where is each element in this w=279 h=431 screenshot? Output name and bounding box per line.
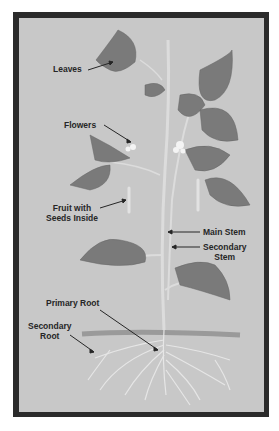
label-leaves: Leaves — [53, 64, 82, 74]
label-secondary-stem: Secondary Stem — [203, 242, 246, 262]
roots — [88, 330, 230, 405]
label-fruit: Fruit with Seeds Inside — [46, 203, 98, 223]
label-primary-root: Primary Root — [46, 298, 99, 308]
label-main-stem: Main Stem — [203, 227, 246, 237]
label-secondary-root: Secondary Root — [28, 321, 71, 341]
soil-line — [82, 332, 240, 335]
plant-illustration — [0, 0, 279, 431]
label-flowers: Flowers — [64, 120, 96, 130]
flowers-group — [126, 141, 186, 154]
